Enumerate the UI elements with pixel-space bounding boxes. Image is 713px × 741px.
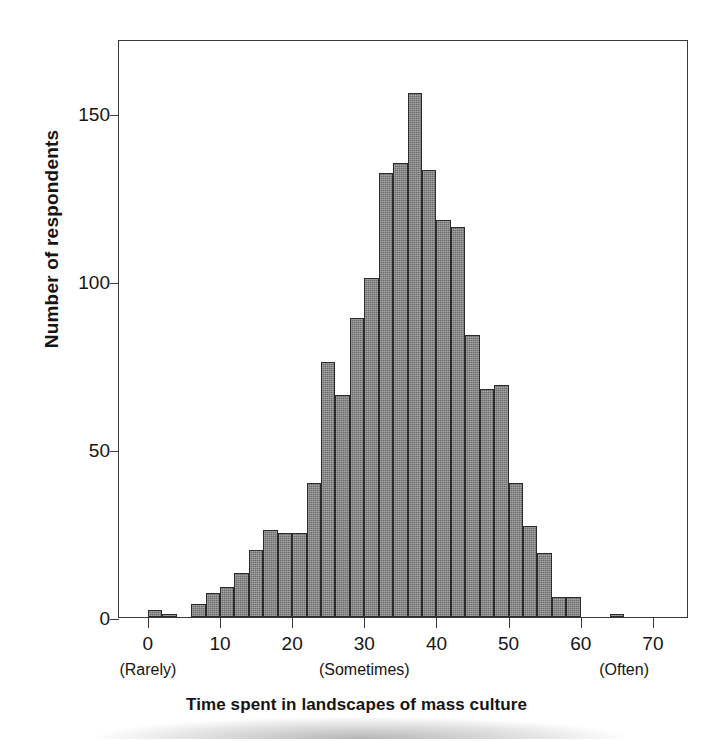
x-axis-anchor-label: (Rarely) [119, 661, 176, 679]
histogram-bar [350, 318, 364, 617]
plot-inner: 050100150010203040506070(Rarely)(Sometim… [119, 41, 687, 617]
x-axis-tick [148, 617, 149, 628]
x-axis-tick-label: 70 [642, 633, 663, 655]
plot-area: 050100150010203040506070(Rarely)(Sometim… [118, 40, 688, 618]
x-axis-tick-label: 60 [570, 633, 591, 655]
histogram-bar [307, 483, 321, 617]
x-axis-tick-label: 30 [354, 633, 375, 655]
y-axis-tick [110, 283, 119, 284]
y-axis-tick [110, 115, 119, 116]
histogram-bar [278, 533, 292, 617]
histogram-bar [552, 597, 566, 617]
histogram-bar [480, 389, 494, 618]
x-axis-tick [581, 617, 582, 628]
histogram-bar [393, 163, 407, 617]
x-axis-tick [364, 617, 365, 628]
x-axis-tick [220, 617, 221, 628]
histogram-bar [523, 526, 537, 617]
histogram-bar [509, 483, 523, 617]
y-axis-tick [110, 619, 119, 620]
y-axis-tick-label: 50 [89, 440, 110, 462]
histogram-bar [321, 362, 335, 617]
x-axis-tick [436, 617, 437, 628]
x-axis-title: Time spent in landscapes of mass culture [0, 695, 713, 715]
histogram-bar [263, 530, 277, 617]
x-axis-anchor-label: (Often) [599, 661, 649, 679]
histogram-bar [220, 587, 234, 617]
histogram-bar [335, 395, 349, 617]
histogram-bar [162, 614, 176, 617]
histogram-bar [436, 220, 450, 617]
y-axis-tick-label: 100 [78, 272, 110, 294]
y-axis-tick [110, 451, 119, 452]
histogram-bar [451, 227, 465, 617]
x-axis-tick [292, 617, 293, 628]
y-axis-title: Number of respondents [41, 69, 63, 409]
histogram-bar [148, 610, 162, 617]
histogram-bar [537, 553, 551, 617]
histogram-bar [566, 597, 580, 617]
x-axis-tick-label: 20 [282, 633, 303, 655]
x-axis-anchor-label: (Sometimes) [319, 661, 410, 679]
x-axis-tick-label: 0 [143, 633, 154, 655]
x-axis-tick [653, 617, 654, 628]
histogram-bar [234, 573, 248, 617]
histogram-bar [364, 278, 378, 617]
x-axis-tick-label: 40 [426, 633, 447, 655]
histogram-bar [191, 604, 205, 617]
histogram-bar [249, 550, 263, 617]
y-axis-tick-label: 0 [99, 608, 110, 630]
scan-shadow-artifact [95, 717, 625, 739]
x-axis-tick [509, 617, 510, 628]
histogram-bar [292, 533, 306, 617]
histogram-figure: Number of respondents 050100150010203040… [0, 0, 713, 741]
y-axis-tick-label: 150 [78, 104, 110, 126]
histogram-bar [465, 335, 479, 617]
x-axis-tick-label: 50 [498, 633, 519, 655]
histogram-bar [379, 173, 393, 617]
histogram-bar [610, 614, 624, 617]
histogram-bar [408, 93, 422, 617]
histogram-bar [422, 170, 436, 617]
x-axis-tick-label: 10 [209, 633, 230, 655]
histogram-bar [206, 593, 220, 617]
histogram-bar [494, 385, 508, 617]
